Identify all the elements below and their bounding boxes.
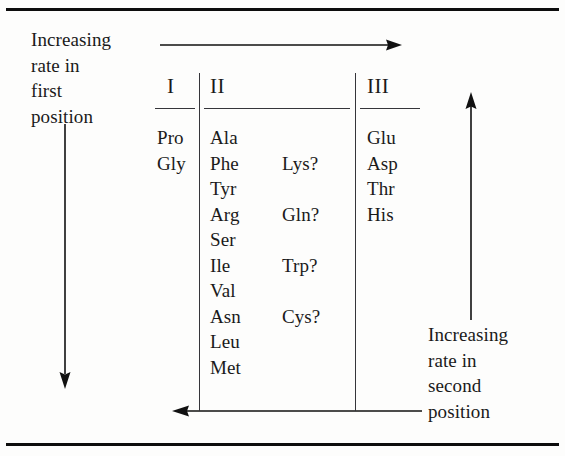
bottom-border-rule	[6, 443, 559, 446]
column-header-ii: II	[210, 73, 225, 99]
caption-increasing-rate-second-position: Increasing rate in second position	[428, 322, 560, 424]
column-header-iii: III	[367, 73, 389, 99]
table-cell: Met	[210, 355, 241, 381]
caption-increasing-rate-first-position: Increasing rate in first position	[31, 27, 156, 129]
table-cell: His	[367, 202, 394, 228]
column-header-i: I	[167, 73, 174, 99]
table-cell: Glu	[367, 125, 396, 151]
table-cell: Asn	[210, 304, 241, 330]
table-cell: Pro	[157, 125, 184, 151]
amino-acid-table: I II III Pro Gly Ala Phe Tyr Arg Ser Ile…	[155, 73, 420, 413]
table-cell: Ile	[210, 253, 230, 279]
arrow-right-icon	[160, 38, 402, 52]
header-rule-1	[155, 108, 195, 109]
table-cell: Leu	[210, 329, 240, 355]
table-cell: Tyr	[210, 176, 236, 202]
top-border-rule	[6, 8, 559, 11]
table-cell-uncertain: Lys?	[282, 151, 318, 177]
table-cell-uncertain: Cys?	[282, 304, 320, 330]
figure-container: Increasing rate in first position Increa…	[0, 0, 565, 456]
header-rule-2	[204, 108, 350, 109]
table-cell: Arg	[210, 202, 240, 228]
table-cell: Asp	[367, 151, 398, 177]
column-separator-1	[199, 73, 200, 411]
header-rule-3	[360, 108, 420, 109]
table-cell-uncertain: Trp?	[282, 253, 318, 279]
table-cell: Val	[210, 278, 236, 304]
table-cell: Phe	[210, 151, 239, 177]
table-cell: Gly	[157, 151, 186, 177]
table-cell: Thr	[367, 176, 395, 202]
table-cell: Ser	[210, 227, 236, 253]
arrow-up-icon	[464, 92, 478, 320]
table-cell: Ala	[210, 125, 238, 151]
arrow-down-icon	[58, 124, 72, 389]
table-cell-uncertain: Gln?	[282, 202, 319, 228]
column-separator-2	[355, 73, 356, 411]
